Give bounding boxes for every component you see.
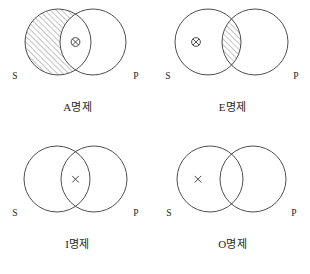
venn-figure-i: S P [0,137,155,237]
panel-caption-i: I명제 [0,235,155,251]
venn-panel-i: S P I명제 [0,137,155,274]
venn-panel-a: S P A명제 [0,0,155,137]
label-s: S [12,71,17,81]
panel-caption-a: A명제 [0,98,155,114]
label-s: S [165,71,170,81]
venn-figure-e: S P [155,0,310,100]
venn-diagram-grid: S P A명제 [0,0,310,274]
circle-p [61,146,127,212]
panel-caption-o: O명제 [155,235,310,251]
circle-s [177,146,243,212]
venn-figure-a: S P [0,0,155,100]
label-p: P [133,71,138,81]
panel-caption-e: E명제 [155,98,310,114]
circle-p [220,146,286,212]
circle-s [24,146,90,212]
label-s: S [166,208,171,218]
venn-panel-e: S P E명제 [155,0,310,137]
label-p: P [133,208,138,218]
x-icon [72,176,79,183]
x-icon [195,176,202,183]
circled-x-icon [192,38,201,47]
venn-figure-o: S P [155,137,310,237]
label-s: S [12,208,17,218]
label-p: P [293,71,298,81]
label-p: P [291,208,296,218]
venn-panel-o: S P O명제 [155,137,310,274]
